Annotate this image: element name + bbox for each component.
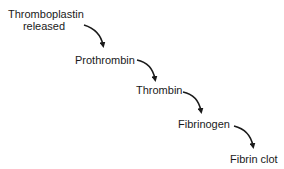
arrow-3-icon <box>183 92 201 111</box>
arrow-4-icon <box>234 126 253 146</box>
cascade-arrows <box>0 0 284 169</box>
arrow-1-icon <box>84 25 103 45</box>
arrow-2-icon <box>137 60 155 79</box>
